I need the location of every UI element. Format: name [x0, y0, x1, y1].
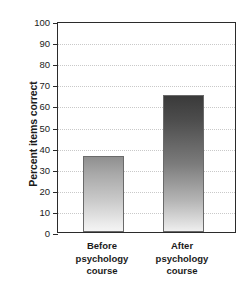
- y-axis-tick-label: 40: [24, 143, 50, 154]
- y-axis-tick-label: 100: [24, 17, 50, 28]
- y-axis-tick: [53, 234, 58, 235]
- x-axis-category-label: Afterpsychologycourse: [136, 240, 228, 278]
- x-axis-category-label-line: course: [136, 265, 228, 278]
- x-axis-category-label-line: Before: [56, 240, 148, 253]
- gridline: [58, 107, 235, 108]
- x-axis-category-label: Beforepsychologycourse: [56, 240, 148, 278]
- y-axis-tick-label: 60: [24, 101, 50, 112]
- y-axis-tick: [53, 44, 58, 45]
- x-axis-category-label-line: psychology: [56, 253, 148, 266]
- y-axis-tick-label: 20: [24, 185, 50, 196]
- bar-after: [163, 95, 204, 232]
- bar-before: [83, 156, 124, 232]
- y-axis-tick-label: 90: [24, 38, 50, 49]
- gridline: [58, 150, 235, 151]
- y-axis-tick-label: 70: [24, 80, 50, 91]
- y-axis-tick-label: 80: [24, 59, 50, 70]
- y-axis-tick-labels: 0102030405060708090100: [22, 22, 50, 233]
- plot-area: [57, 22, 236, 233]
- x-axis-category-label-line: course: [56, 265, 148, 278]
- y-axis-tick: [53, 213, 58, 214]
- gridline: [58, 86, 235, 87]
- gridline: [58, 44, 235, 45]
- y-axis-tick: [53, 129, 58, 130]
- gridline: [58, 129, 235, 130]
- bar-chart-figure: Percent items correct 010203040506070809…: [0, 0, 252, 297]
- y-axis-tick: [53, 65, 58, 66]
- y-axis-tick: [53, 86, 58, 87]
- y-axis-tick: [53, 192, 58, 193]
- y-axis-tick-label: 50: [24, 122, 50, 133]
- y-axis-tick: [53, 171, 58, 172]
- x-axis-category-label-line: psychology: [136, 253, 228, 266]
- y-axis-tick-label: 0: [24, 228, 50, 239]
- y-axis-tick: [53, 150, 58, 151]
- y-axis-tick-label: 30: [24, 164, 50, 175]
- y-axis-tick-label: 10: [24, 206, 50, 217]
- y-axis-tick: [53, 23, 58, 24]
- y-axis-tick: [53, 107, 58, 108]
- x-axis-category-label-line: After: [136, 240, 228, 253]
- gridline: [58, 65, 235, 66]
